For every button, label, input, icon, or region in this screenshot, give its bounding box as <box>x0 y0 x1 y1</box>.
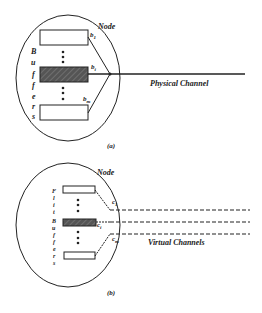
svg-text:F: F <box>52 188 56 194</box>
flit-buffer-active-b <box>63 219 96 226</box>
svg-text:e: e <box>32 92 36 101</box>
buffers-vs-virtual-channels-diagram: Node b1 bi bm B u f f e r s Physical Cha… <box>0 0 262 313</box>
svg-text:f: f <box>53 239 56 245</box>
svg-text:f: f <box>32 70 36 79</box>
svg-text:f: f <box>53 232 56 238</box>
mux-point-a <box>109 73 112 76</box>
flit-buffer-first-b <box>63 186 95 193</box>
node-label-b: Node <box>96 168 115 177</box>
svg-text:i: i <box>53 202 55 208</box>
svg-text:s: s <box>52 260 56 266</box>
svg-text:r: r <box>32 102 36 111</box>
svg-text:B: B <box>30 47 37 56</box>
flit-buffer-last-b <box>64 252 95 259</box>
figure-a: Node b1 bi bm B u f f e r s Physical Cha… <box>16 15 245 150</box>
svg-text:l: l <box>53 195 55 201</box>
svg-text:u: u <box>52 225 56 231</box>
svg-text:r: r <box>53 253 56 259</box>
channel-label-last-b: cm <box>112 235 119 244</box>
buffer-box-last-a <box>40 105 88 120</box>
physical-channel-label: Physical Channel <box>150 79 209 88</box>
svg-text:t: t <box>53 209 55 215</box>
flit-buffers-vertical-label-b: F l i t B u f f e r s <box>51 188 56 266</box>
virtual-channel-lines <box>110 210 250 234</box>
virtual-channels-label: Virtual Channels <box>148 238 205 247</box>
svg-text:B: B <box>51 218 56 224</box>
buffer-label-first-a: b1 <box>90 31 96 40</box>
buffer-box-active-a <box>40 67 88 82</box>
caption-b: (b) <box>107 289 115 297</box>
caption-a: (a) <box>107 142 115 150</box>
buffer-label-mid-a: bi <box>91 63 97 72</box>
channel-label-first-b: c1 <box>112 198 118 207</box>
buffer-box-first-a <box>40 30 88 45</box>
channel-label-mid-b: ci <box>97 221 102 230</box>
figure-b: Node c1 ci cm F l i t B u f <box>16 163 250 297</box>
node-label-a: Node <box>97 22 116 31</box>
buffers-vertical-label-a: B u f f e r s <box>30 47 37 121</box>
buffer-label-last-a: bm <box>83 95 91 104</box>
svg-text:u: u <box>31 58 36 67</box>
svg-text:e: e <box>53 246 56 252</box>
mux-lines-a <box>88 37 110 113</box>
svg-text:s: s <box>31 112 35 121</box>
svg-text:f: f <box>32 81 36 90</box>
